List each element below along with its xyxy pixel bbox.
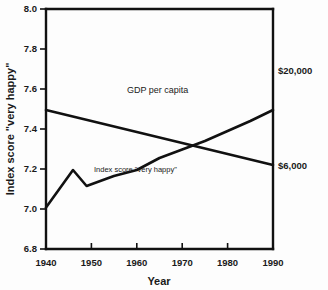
x-tick-labels: 1940 1950 1960 1970 1980 1990	[35, 257, 283, 268]
x-tick-label: 1960	[126, 257, 147, 268]
line-chart: 8.0 7.8 7.6 7.4 7.2 7.0 6.8 1940 1950 19…	[0, 0, 328, 290]
chart-container: 8.0 7.8 7.6 7.4 7.2 7.0 6.8 1940 1950 19…	[0, 0, 328, 290]
annotation-index-score: Index score "very happy"	[94, 165, 177, 174]
y-tick-label: 6.8	[24, 243, 37, 254]
x-axis-title: Year	[147, 275, 171, 287]
end-label-gdp-low: $6,000	[278, 160, 307, 171]
y-tick-label: 7.4	[24, 123, 38, 134]
x-tick-label: 1970	[172, 257, 193, 268]
y-axis-title: Index score "very happy"	[4, 63, 16, 196]
y-tick-label: 8.0	[24, 3, 37, 14]
y-tick-labels: 8.0 7.8 7.6 7.4 7.2 7.0 6.8	[24, 3, 38, 254]
y-tick-label: 7.0	[24, 203, 37, 214]
annotation-gdp-per-capita: GDP per capita	[127, 85, 188, 95]
x-tick-label: 1950	[81, 257, 102, 268]
x-tick-label: 1990	[262, 257, 283, 268]
plot-frame	[46, 9, 273, 249]
y-tick-label: 7.6	[24, 83, 37, 94]
x-tick-label: 1980	[217, 257, 238, 268]
x-tick-label: 1940	[35, 257, 56, 268]
end-label-gdp-high: $20,000	[278, 65, 312, 76]
series-line-gdp-per-capita	[46, 110, 273, 208]
y-tick-label: 7.8	[24, 43, 37, 54]
y-tick-label: 7.2	[24, 163, 37, 174]
